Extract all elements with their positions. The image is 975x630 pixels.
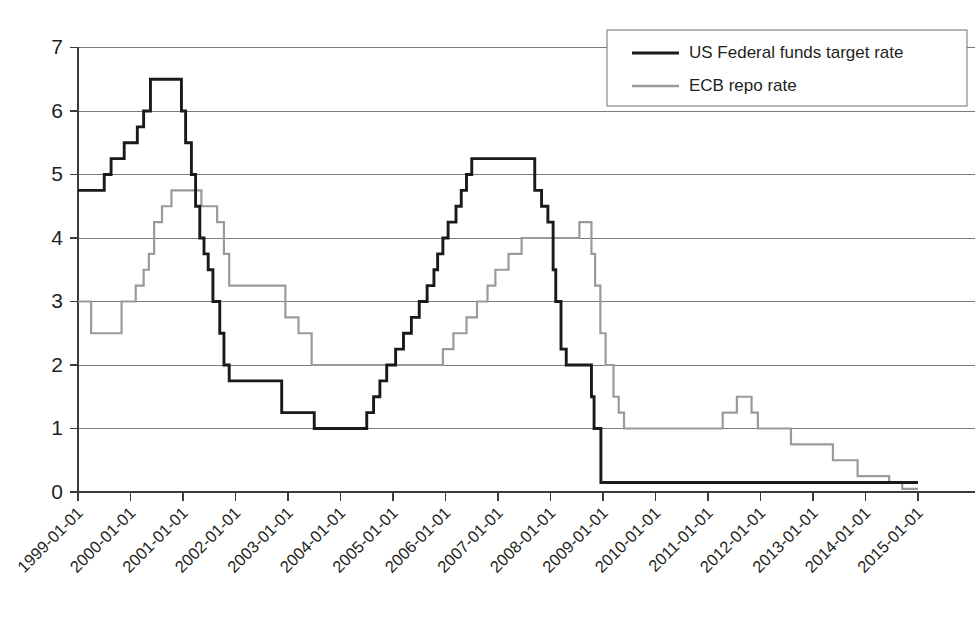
legend-label-us-fed-funds: US Federal funds target rate — [689, 43, 904, 62]
legend-label-ecb-repo: ECB repo rate — [689, 76, 797, 95]
y-tick-label-2: 2 — [51, 353, 63, 376]
y-tick-label-1: 1 — [51, 416, 63, 439]
series-line-ecb-repo — [78, 190, 918, 488]
y-tick-label-7: 7 — [51, 35, 63, 58]
y-tick-label-4: 4 — [51, 226, 63, 249]
y-tick-label-0: 0 — [51, 480, 63, 503]
chart-canvas: 01234567 1999-01-012000-01-012001-01-012… — [0, 0, 975, 630]
data-series — [78, 79, 918, 489]
y-tick-label-3: 3 — [51, 289, 63, 312]
chart-legend: US Federal funds target rateECB repo rat… — [607, 30, 967, 106]
interest-rate-chart: 01234567 1999-01-012000-01-012001-01-012… — [0, 0, 975, 630]
y-axis-ticks: 01234567 — [51, 35, 79, 503]
series-line-us-fed-funds — [78, 79, 918, 482]
y-tick-label-6: 6 — [51, 99, 63, 122]
y-tick-label-5: 5 — [51, 162, 63, 185]
x-axis-ticks: 1999-01-012000-01-012001-01-012002-01-01… — [14, 492, 926, 576]
